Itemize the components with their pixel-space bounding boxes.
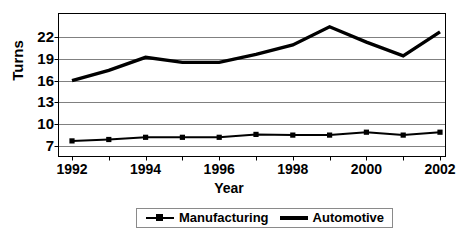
x-tick-label: 1994 <box>130 162 161 176</box>
legend-label: Automotive <box>313 210 385 225</box>
line-chart: Turns 71013161922 1992199419961998200020… <box>0 0 458 247</box>
data-point-marker <box>437 130 442 135</box>
data-point-marker <box>401 133 406 138</box>
series-line-automotive <box>72 27 440 81</box>
x-tick-label: 2000 <box>351 162 382 176</box>
data-point-marker <box>69 138 74 143</box>
x-axis-tick-labels: 199219941996199820002002 <box>0 162 458 182</box>
data-point-marker <box>143 135 148 140</box>
legend-label: Manufacturing <box>179 210 269 225</box>
line-with-square-marker-icon <box>145 212 175 224</box>
x-tick-label: 1998 <box>277 162 308 176</box>
data-point-marker <box>106 137 111 142</box>
series-layer <box>69 27 442 144</box>
chart-legend: ManufacturingAutomotive <box>136 208 393 228</box>
data-point-marker <box>180 135 185 140</box>
x-axis-title: Year <box>0 180 458 196</box>
thick-line-icon <box>279 212 309 224</box>
data-point-marker <box>364 130 369 135</box>
x-tick-label: 1996 <box>204 162 235 176</box>
data-point-marker <box>327 133 332 138</box>
data-point-marker <box>253 132 258 137</box>
x-tick-label: 1992 <box>56 162 87 176</box>
data-point-marker <box>217 135 222 140</box>
legend-item[interactable]: Automotive <box>279 210 385 225</box>
x-tick-label: 2002 <box>424 162 455 176</box>
legend-item[interactable]: Manufacturing <box>145 210 269 225</box>
data-point-marker <box>290 133 295 138</box>
